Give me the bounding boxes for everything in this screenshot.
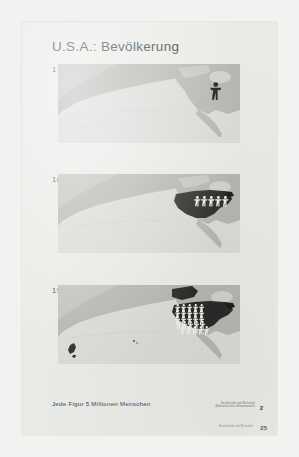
credit-block: Gesellschaft und Wirtschaft Bildstatisti… — [215, 402, 255, 408]
document-page: U.S.A.: Bevölkerung 1783 — [22, 22, 277, 435]
map-graphic-1930 — [58, 285, 240, 364]
page-title: U.S.A.: Bevölkerung — [52, 39, 179, 54]
map-panel-1850 — [58, 174, 240, 253]
map-graphic-1850 — [58, 174, 240, 253]
hudson-bay — [211, 291, 233, 303]
screenshot-canvas: U.S.A.: Bevölkerung 1783 — [0, 0, 299, 457]
bottom-credit: Gesellschaft und Wirtschaft — [219, 425, 253, 428]
credit-line-2: Bildstatistisches Elementarwerk — [215, 405, 255, 408]
bottom-page-number: 25 — [260, 425, 267, 431]
map-panel-1783 — [58, 64, 240, 143]
map-graphic-1783 — [58, 64, 240, 143]
page-number: 2 — [260, 405, 263, 411]
hudson-bay — [209, 71, 231, 83]
legend-caption: Jede Figur 5 Millionen Menschen — [52, 400, 151, 407]
map-panel-1930 — [58, 285, 240, 364]
